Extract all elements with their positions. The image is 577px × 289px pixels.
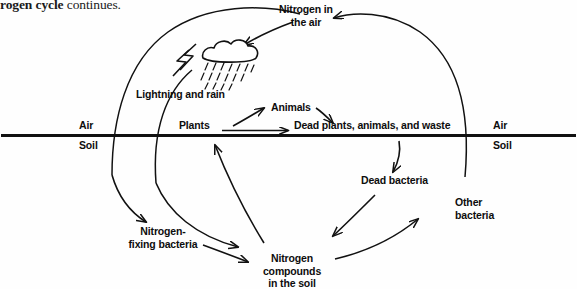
label-animals: Animals [271,101,311,114]
arrow-compounds-to-plants [215,145,264,243]
arrow-dead-matter-to-dead-bacteria [393,141,400,172]
rain-icon [201,63,254,90]
arrow-fixing-bacteria-to-compounds [203,245,248,262]
cloud-icon [203,40,258,62]
arrow-plants-to-animals [233,108,264,126]
arrow-dead-bacteria-to-compounds [333,195,375,236]
diagram-page: rogen cycle continues. [0,0,577,289]
label-soil-right: Soil [493,139,512,152]
label-air-left: Air [79,119,93,132]
label-plants: Plants [179,119,210,132]
label-lightning-and-rain: Lightning and rain [136,88,225,101]
arrow-compounds-to-other-bacteria [335,219,418,259]
arrow-to-nitrogen-fixing-bacteria [112,175,146,222]
label-other-bacteria: Other bacteria [455,196,494,221]
label-nitrogen-compounds-in-the-soil: Nitrogen compounds in the soil [253,252,331,289]
label-dead-bacteria: Dead bacteria [361,174,428,187]
lightning-bolt-icon [173,44,196,76]
label-soil-left: Soil [79,139,98,152]
label-nitrogen-in-the-air: Nitrogen in the air [266,3,346,28]
label-dead-plants-animals-waste: Dead plants, animals, and waste [294,119,450,132]
label-air-right: Air [493,119,507,132]
label-nitrogen-fixing-bacteria: Nitrogen- fixing bacteria [120,225,206,250]
